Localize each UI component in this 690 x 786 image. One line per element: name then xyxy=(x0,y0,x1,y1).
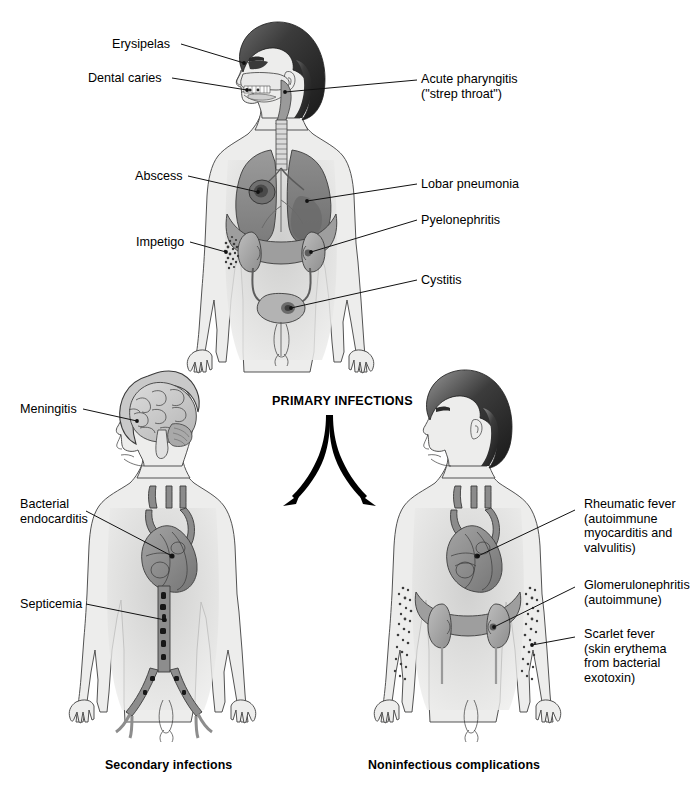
label-acute-pharyngitis: Acute pharyngitis ("strep throat") xyxy=(421,72,518,101)
figure-primary xyxy=(187,22,374,373)
noninfectious-head xyxy=(423,370,512,468)
caption-secondary-infections: Secondary infections xyxy=(105,758,232,772)
label-bacterial-endocarditis: Bacterial endocarditis xyxy=(20,497,88,526)
figure-noninfectious xyxy=(374,370,561,742)
label-cystitis: Cystitis xyxy=(421,273,462,288)
branch-arrows xyxy=(283,415,376,506)
label-pyelonephritis: Pyelonephritis xyxy=(421,213,500,228)
label-rheumatic-fever: Rheumatic fever (autoimmune myocarditis … xyxy=(584,497,676,555)
leader-erysipelas xyxy=(181,44,246,65)
figure-secondary xyxy=(69,371,256,742)
label-impetigo: Impetigo xyxy=(136,235,184,250)
label-glomerulonephritis: Glomerulonephritis (autoimmune) xyxy=(584,578,690,607)
label-septicemia: Septicemia xyxy=(20,597,82,612)
trachea xyxy=(276,120,287,170)
primary-infections-heading: PRIMARY INFECTIONS xyxy=(272,394,413,408)
label-scarlet-fever: Scarlet fever (skin erythema from bacter… xyxy=(584,627,667,685)
abscess-lesion xyxy=(249,180,275,204)
caption-noninfectious-complications: Noninfectious complications xyxy=(368,758,540,772)
label-dental-caries: Dental caries xyxy=(88,71,162,86)
label-lobar-pneumonia: Lobar pneumonia xyxy=(421,177,519,192)
label-meningitis: Meningitis xyxy=(20,402,77,417)
label-erysipelas: Erysipelas xyxy=(112,37,170,52)
primary-head xyxy=(236,22,325,124)
secondary-head-brain xyxy=(116,371,199,466)
label-abscess: Abscess xyxy=(135,169,183,184)
